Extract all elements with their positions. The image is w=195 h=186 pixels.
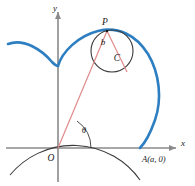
geometry-figure: y x O P b C θ A(a, 0) xyxy=(0,0,195,186)
labels-group: y x O P b C θ A(a, 0) xyxy=(48,3,185,164)
epicycloid-main-branch xyxy=(58,30,159,148)
y-axis-label: y xyxy=(52,3,57,13)
angle-theta-label: θ xyxy=(82,125,87,135)
point-markers-group xyxy=(106,30,109,33)
point-P-label: P xyxy=(101,17,108,27)
x-axis-label: x xyxy=(180,138,185,148)
rolling-circle-C xyxy=(91,30,133,72)
origin-label: O xyxy=(48,153,55,163)
point-P-marker xyxy=(106,30,109,33)
x-axis-arrowhead xyxy=(169,145,176,151)
segment-P-to-C xyxy=(107,31,127,72)
circle-center-C-label: C xyxy=(114,53,121,63)
fixed-circle-group xyxy=(10,145,140,180)
y-axis-arrowhead xyxy=(55,12,61,19)
point-A-label: A(a, 0) xyxy=(141,154,166,164)
rolling-circle-group xyxy=(91,30,133,72)
radius-b-label: b xyxy=(101,37,106,47)
fixed-circle-arc xyxy=(10,145,140,180)
figure-canvas: y x O P b C θ A(a, 0) xyxy=(0,0,195,186)
epicycloid-left-branch xyxy=(8,42,58,66)
